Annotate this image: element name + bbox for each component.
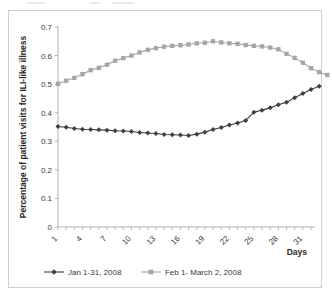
y-tick-label: 0.3 — [41, 137, 53, 146]
legend-label: Feb 1- March 2, 2008 — [165, 268, 242, 277]
data-series-layer — [56, 39, 330, 138]
y-tick-label: 0.4 — [41, 109, 53, 118]
x-axis: 1471013161922252831 — [50, 227, 315, 247]
legend-label: Jan 1-31, 2008 — [68, 268, 122, 277]
y-tick-label: 0 — [48, 223, 53, 232]
chart-legend: Jan 1-31, 2008Feb 1- March 2, 2008 — [44, 268, 242, 277]
x-tick-label: 25 — [243, 234, 256, 247]
x-axis-title: Days — [287, 247, 308, 257]
x-tick-label: 31 — [292, 234, 305, 247]
legend-entry-1[interactable]: Jan 1-31, 2008 — [44, 268, 122, 277]
x-tick-label: 4 — [74, 234, 84, 244]
x-tick-label: 16 — [169, 234, 182, 247]
x-tick-label: 28 — [267, 234, 280, 247]
x-tick-label: 13 — [145, 234, 158, 247]
x-tick-label: 10 — [120, 234, 133, 247]
x-tick-label: 19 — [194, 234, 207, 247]
x-tick-label: 7 — [99, 234, 109, 244]
y-axis: 00.10.20.30.40.50.60.7 — [41, 23, 58, 232]
legend-entry-2[interactable]: Feb 1- March 2, 2008 — [141, 268, 242, 277]
line-chart-plot: 00.10.20.30.40.50.60.7 14710131619222528… — [0, 0, 332, 295]
x-tick-label: 22 — [218, 234, 231, 247]
y-tick-label: 0.1 — [41, 194, 53, 203]
series-2 — [56, 39, 330, 86]
y-tick-label: 0.5 — [41, 80, 53, 89]
x-tick-label: 1 — [50, 234, 60, 244]
y-axis-title: Percentage of patient visits for ILI-lik… — [18, 36, 28, 219]
y-tick-label: 0.7 — [41, 23, 53, 32]
chart-figure: 00.10.20.30.40.50.60.7 14710131619222528… — [0, 0, 332, 295]
y-tick-label: 0.2 — [41, 166, 53, 175]
series-1 — [56, 84, 322, 138]
y-tick-label: 0.6 — [41, 52, 53, 61]
axis-titles-layer: Percentage of patient visits for ILI-lik… — [18, 36, 307, 257]
